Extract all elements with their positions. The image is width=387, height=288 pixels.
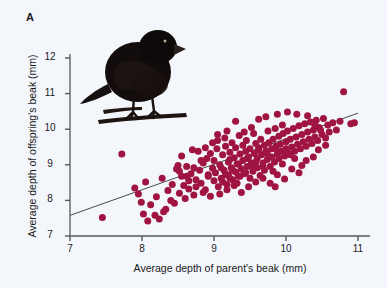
data-point: [281, 176, 288, 183]
data-point: [310, 153, 317, 160]
data-point: [164, 187, 171, 194]
data-point: [118, 151, 125, 158]
data-point: [211, 177, 218, 184]
data-point: [248, 124, 255, 131]
data-point: [272, 145, 279, 152]
data-point: [262, 113, 269, 120]
data-point: [131, 184, 138, 191]
data-point: [221, 135, 228, 142]
x-tick-label: 11: [346, 243, 370, 254]
data-point: [279, 161, 286, 168]
finch-head: [139, 30, 177, 64]
data-point: [329, 119, 336, 126]
data-point: [193, 183, 200, 190]
data-point: [178, 152, 185, 159]
data-point: [223, 127, 230, 134]
data-point: [293, 111, 300, 118]
data-point: [257, 136, 264, 143]
data-point: [314, 137, 321, 144]
finch-breast-shade: [132, 71, 168, 97]
x-tick-label: 7: [58, 243, 82, 254]
data-point: [234, 180, 241, 187]
data-point: [195, 148, 202, 155]
data-point: [140, 210, 147, 217]
y-tick-label: 7: [40, 229, 60, 240]
data-point: [218, 164, 225, 171]
data-point: [315, 146, 322, 153]
data-point: [219, 178, 226, 185]
y-tick-label: 8: [40, 193, 60, 204]
data-point: [216, 190, 223, 197]
data-point: [311, 121, 318, 128]
data-point: [183, 173, 190, 180]
data-point: [317, 126, 324, 133]
data-point: [265, 127, 272, 134]
data-point: [238, 189, 245, 196]
data-point: [284, 109, 291, 116]
data-point: [219, 151, 226, 158]
data-point: [322, 142, 329, 149]
data-point: [259, 163, 266, 170]
data-point: [207, 150, 214, 157]
data-point: [298, 162, 305, 169]
data-point: [270, 168, 277, 175]
data-point: [156, 215, 163, 222]
data-point: [205, 171, 212, 178]
data-point: [255, 146, 262, 153]
data-point: [320, 115, 327, 122]
data-point: [272, 125, 279, 132]
data-point: [200, 189, 207, 196]
data-point: [242, 169, 249, 176]
y-tick-label: 11: [40, 87, 60, 98]
data-point: [169, 181, 176, 188]
data-point: [222, 143, 229, 150]
data-point: [279, 121, 286, 128]
data-point: [243, 137, 250, 144]
x-axis-title: Average depth of parent's beak (mm): [70, 262, 370, 274]
data-point: [212, 169, 219, 176]
data-point: [190, 192, 197, 199]
data-point: [259, 175, 266, 182]
y-tick-label: 9: [40, 158, 60, 169]
data-point: [198, 157, 205, 164]
finch-tail: [80, 84, 112, 104]
data-point: [185, 186, 192, 193]
data-point: [252, 178, 259, 185]
data-point: [214, 131, 221, 138]
data-point: [209, 139, 216, 146]
data-point: [322, 135, 329, 142]
data-point: [135, 190, 142, 197]
finch-photo: [80, 30, 187, 124]
y-tick-label: 12: [40, 51, 60, 62]
data-point: [142, 178, 149, 185]
data-point: [162, 206, 169, 213]
x-tick-label: 9: [202, 243, 226, 254]
data-point: [249, 164, 256, 171]
data-point: [351, 119, 358, 126]
data-point: [295, 169, 302, 176]
branch-twig: [103, 107, 142, 114]
data-point: [287, 151, 294, 158]
data-point: [211, 157, 218, 164]
data-point: [226, 156, 233, 163]
x-tick-label: 10: [274, 243, 298, 254]
data-point: [99, 214, 106, 221]
data-point: [340, 88, 347, 95]
data-point: [207, 193, 214, 200]
data-point: [183, 163, 190, 170]
data-point: [255, 116, 262, 123]
data-point: [245, 183, 252, 190]
data-point: [213, 145, 220, 152]
x-tick-label: 8: [130, 243, 154, 254]
data-point: [153, 193, 160, 200]
data-point: [232, 118, 239, 125]
data-point: [333, 126, 340, 133]
y-tick-label: 10: [40, 122, 60, 133]
data-point: [337, 118, 344, 125]
data-point: [147, 201, 154, 208]
data-point: [176, 190, 183, 197]
finch-beak: [174, 44, 186, 55]
data-point: [229, 139, 236, 146]
data-point: [176, 168, 183, 175]
data-point: [326, 129, 333, 136]
